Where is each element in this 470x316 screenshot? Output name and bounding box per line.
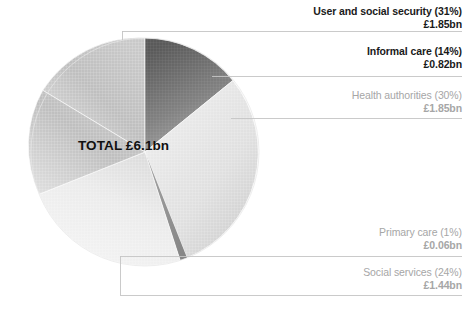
leader-line-user-and-social-security — [122, 31, 462, 40]
callout-title-health-authorities: Health authorities (30%) — [162, 89, 462, 102]
callout-value-health-authorities: £1.85bn — [162, 102, 462, 115]
callout-label-primary-care: Primary care (1%) £0.06bn — [162, 226, 462, 252]
callout-label-user-and-social-security: User and social security (31%) £1.85bn — [162, 5, 462, 31]
callout-label-health-authorities: Health authorities (30%) £1.85bn — [162, 89, 462, 115]
callout-title-user-and-social-security: User and social security (31%) — [162, 5, 462, 18]
callout-title-social-services: Social services (24%) — [162, 266, 462, 279]
callout-title-primary-care: Primary care (1%) — [162, 226, 462, 239]
callout-value-user-and-social-security: £1.85bn — [162, 18, 462, 31]
callout-value-informal-care: £0.82bn — [162, 58, 462, 71]
callout-label-social-services: Social services (24%) £1.44bn — [162, 266, 462, 292]
callout-value-primary-care: £0.06bn — [162, 239, 462, 252]
pie-center-total-label: TOTAL £6.1bn — [78, 138, 169, 153]
callout-value-social-services: £1.44bn — [162, 279, 462, 292]
callout-label-informal-care: Informal care (14%) £0.82bn — [162, 45, 462, 71]
callout-title-informal-care: Informal care (14%) — [162, 45, 462, 58]
pie-chart-figure: TOTAL £6.1bn User and social security (3… — [0, 0, 470, 316]
